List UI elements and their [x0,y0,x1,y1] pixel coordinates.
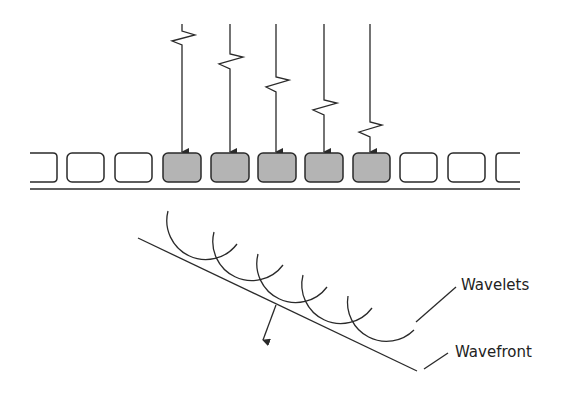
pulse-arrow-1 [172,24,195,152]
array-element-idle [115,153,152,182]
wavelet-arc-3 [257,254,327,303]
wavelets-leader-line [416,287,456,322]
array-element-idle [400,153,437,182]
propagation-direction-arrow [263,305,276,340]
pulse-arrow-3 [266,24,289,152]
wavelet-arc-5 [347,296,414,341]
wavelet-arc-1 [167,211,237,260]
array-element-idle [67,153,104,182]
wavefront-line [138,238,417,371]
transducer-array [30,153,520,182]
incident-pulse-arrows [172,24,382,152]
array-element-active [211,153,249,182]
array-element-active [353,153,390,182]
pulse-arrow-4 [313,24,337,152]
wavelet-arcs [167,211,414,341]
array-element-active [258,153,296,182]
pulse-arrow-5 [359,24,382,152]
pulse-arrow-2 [219,24,243,152]
array-element-active [163,153,201,182]
wavefront-label: Wavefront [455,343,532,361]
array-element-idle [448,153,485,182]
wavelets-label: Wavelets [461,276,529,294]
phased-array-diagram: Wavelets Wavefront [0,0,565,399]
array-element-active [305,153,343,182]
wavelet-arc-2 [213,232,283,281]
array-element-partial-right [496,153,520,182]
wavefront-leader-line [424,353,448,369]
array-element-partial-left [30,153,57,182]
